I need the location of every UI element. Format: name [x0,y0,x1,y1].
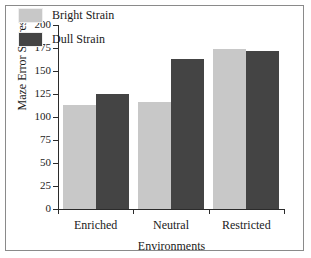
x-axis-label-neutral: Neutral [133,218,208,233]
y-tick-label-50: 50 [40,157,51,168]
y-tick-label-0: 0 [46,203,52,214]
x-axis-title: Environments [58,239,285,254]
y-tick-125 [53,94,58,95]
y-tick-label-100: 100 [35,111,52,122]
y-tick-100 [53,117,58,118]
x-axis-label-restricted: Restricted [209,218,284,233]
legend-item-dull-strain: Dull Strain [18,30,114,49]
legend-swatch-bright-strain [18,8,43,23]
y-tick-150 [53,71,58,72]
x-tick-restricted [209,210,210,214]
y-tick-label-25: 25 [40,180,51,191]
x-tick-neutral [133,210,134,214]
x-axis-label-enriched: Enriched [58,218,133,233]
bar-enriched-bright-strain [63,105,96,209]
y-tick-75 [53,140,58,141]
x-axis-line [58,209,285,210]
y-tick-50 [53,163,58,164]
bar-restricted-bright-strain [213,49,246,209]
y-tick-label-150: 150 [35,65,52,76]
legend-label-dull-strain: Dull Strain [52,32,105,47]
bar-neutral-dull-strain [171,59,204,209]
chart-frame: 0255075100125150175200 Maze Error Scores… [5,5,304,251]
y-tick-25 [53,186,58,187]
bar-enriched-dull-strain [96,94,129,209]
x-tick-enriched [58,210,59,214]
legend-label-bright-strain: Bright Strain [52,8,114,23]
y-tick-label-125: 125 [35,88,52,99]
bar-restricted-dull-strain [246,51,279,209]
chart-legend: Bright Strain Dull Strain [18,6,114,54]
legend-item-bright-strain: Bright Strain [18,6,114,25]
legend-swatch-dull-strain [18,32,43,47]
y-tick-label-75: 75 [40,134,51,145]
bar-neutral-bright-strain [138,102,171,209]
x-tick-end [284,210,285,214]
